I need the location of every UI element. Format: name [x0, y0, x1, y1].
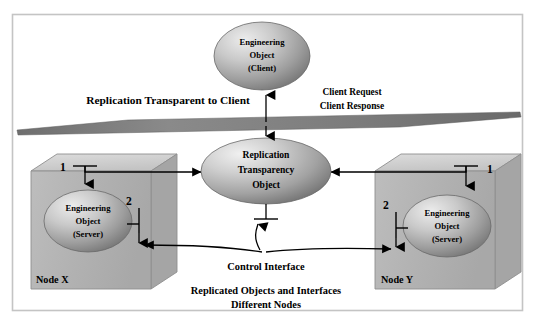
- node-y-object-line3: (Server): [432, 234, 462, 244]
- replication-transparency-diagram: Replication Transparency Object Engineer…: [0, 0, 538, 325]
- node-y-object-line1: Engineering: [425, 208, 471, 218]
- node-x-side-face: [151, 154, 177, 289]
- client-response-label: Client Response: [320, 101, 384, 111]
- caption-line2: Different Nodes: [231, 299, 301, 310]
- diagram-canvas: Replication Transparency Object Engineer…: [0, 0, 538, 325]
- node-y-interface-1-label: 1: [487, 163, 493, 176]
- node-x-engineering-object: Engineering Object (Server): [44, 190, 132, 252]
- node-x-object-line1: Engineering: [66, 203, 112, 213]
- control-interface-label: Control Interface: [227, 261, 305, 272]
- node-y-engineering-object: Engineering Object (Server): [403, 195, 491, 257]
- node-x-object-line3: (Server): [73, 229, 103, 239]
- node-y-side-face: [495, 154, 521, 289]
- center-object-line3: Object: [252, 179, 281, 190]
- client-object-line3: (Client): [248, 63, 276, 73]
- node-x-interface-1-label: 1: [60, 161, 66, 174]
- node-x-name: Node X: [36, 274, 69, 285]
- node-y-interface-2-label: 2: [383, 199, 389, 212]
- node-x-object-line2: Object: [76, 216, 101, 226]
- banner-label: Replication Transparent to Client: [86, 94, 250, 106]
- client-object-line2: Object: [250, 50, 275, 60]
- center-object-line1: Replication: [243, 149, 291, 160]
- client-request-label: Client Request: [322, 87, 382, 97]
- node-y-object-line2: Object: [435, 221, 460, 231]
- node-y-name: Node Y: [381, 274, 414, 285]
- engineering-object-client: Engineering Object (Client): [214, 22, 310, 90]
- client-object-line1: Engineering: [240, 37, 286, 47]
- replication-transparency-object: Replication Transparency Object: [201, 138, 331, 204]
- center-object-line2: Transparency: [238, 164, 295, 175]
- caption-line1: Replicated Objects and Interfaces: [191, 285, 341, 296]
- node-x-interface-2-label: 2: [126, 195, 132, 208]
